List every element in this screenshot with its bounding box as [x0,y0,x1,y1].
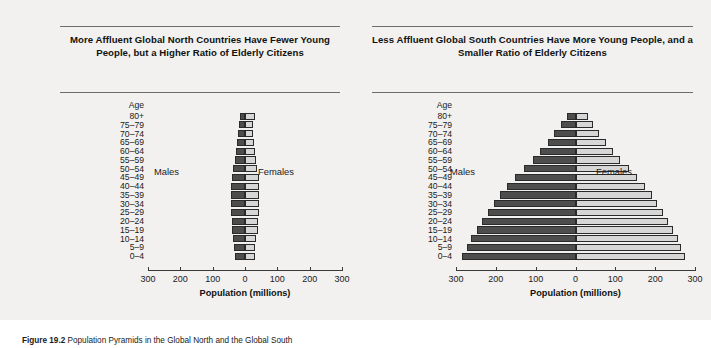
bar-female [576,130,600,137]
bar-male [533,156,576,163]
bar-male [467,244,575,251]
panel-rule-bottom [60,92,340,93]
bar-male [462,253,576,260]
age-group-label: 0–4 [408,252,452,261]
bar-male [561,121,575,128]
bar-male [548,139,576,146]
bar-male [235,156,245,163]
bar-male [482,218,576,225]
age-axis-header: Age [408,100,452,110]
pyramid-row: 60–64 [72,147,342,156]
panel-title-global-south: Less Affluent Global South Countries Hav… [372,33,693,60]
bar-female [245,244,255,251]
pyramid-rows-global-south: 80+75–7970–7465–6960–6455–5950–5445–4940… [384,112,695,270]
bar-female [576,244,682,251]
x-axis-tick [148,267,149,271]
bar-track [456,182,695,191]
panels-row: More Affluent Global North Countries Hav… [0,0,711,320]
bar-track [456,191,695,200]
x-axis-tick [655,267,656,271]
bar-track [148,208,342,217]
pyramid-row: 25–29 [72,208,342,217]
plot-area-global-north: Age 80+75–7970–7465–6960–6455–5950–5445–… [72,100,342,282]
x-axis-tick-label: 200 [648,274,663,284]
bar-male [477,226,576,233]
bar-track [456,112,695,121]
bar-male [232,218,245,225]
bar-male [231,191,245,198]
bar-track [148,226,342,235]
bar-male [494,200,576,207]
bar-female [576,235,678,242]
x-axis-tick [695,267,696,271]
bar-track [456,165,695,174]
panel-title-global-north: More Affluent Global North Countries Hav… [60,33,340,60]
bar-track [456,200,695,209]
x-axis-tick-label: 300 [448,274,463,284]
bar-male [232,174,245,181]
bar-track [456,138,695,147]
pyramid-row: 65–69 [72,138,342,147]
bar-female [245,226,258,233]
panel-rule-top [60,26,340,27]
bar-male [238,130,245,137]
bar-male [232,226,245,233]
bar-male [235,253,245,260]
bar-female [245,235,256,242]
bar-track [148,147,342,156]
bar-female [576,200,658,207]
bar-female [245,130,253,137]
bar-female [576,218,669,225]
bar-male [567,113,576,120]
series-label-males-south: Males [450,166,475,177]
bar-track [456,235,695,244]
x-axis-tick [615,267,616,271]
x-axis-tick [576,267,577,271]
x-axis-global-north: Population (millions) 300200100010020030… [148,270,342,296]
panel-rule-top [372,26,693,27]
bar-track [148,217,342,226]
bar-track [456,121,695,130]
bar-track [148,191,342,200]
bar-female [245,183,259,190]
x-axis-title: Population (millions) [148,288,342,298]
bar-track [456,217,695,226]
x-axis-tick-label: 300 [334,274,349,284]
x-axis-tick-label: 100 [205,274,220,284]
x-axis-tick [456,267,457,271]
bar-track [148,182,342,191]
pyramid-row: 45–49 [72,173,342,182]
pyramid-row: 80+ [72,112,342,121]
bar-female [576,113,589,120]
bar-female [576,121,594,128]
bar-female [245,253,255,260]
series-label-males-north: Males [154,166,179,177]
x-axis-tick-label: 100 [270,274,285,284]
panel-rule-bottom [372,92,693,93]
pyramid-row: 20–24 [72,217,342,226]
bar-male [233,165,245,172]
bar-track [148,112,342,121]
bar-male [488,209,576,216]
bar-male [471,235,575,242]
pyramid-row: 10–14 [72,235,342,244]
pyramid-rows-global-north: 80+75–7970–7465–6960–6455–5950–5445–4940… [72,112,342,270]
bar-track [456,147,695,156]
figure-caption-text: Population Pyramids in the Global North … [68,336,293,345]
bar-female [576,148,613,155]
bar-track [148,200,342,209]
age-axis-header: Age [100,100,144,110]
pyramid-row: 40–44 [72,182,342,191]
bar-male [540,148,575,155]
bar-female [576,253,686,260]
age-group-label: 0–4 [100,252,144,261]
bar-male [237,139,245,146]
bar-track [456,208,695,217]
bar-female [245,209,259,216]
bar-female [576,209,663,216]
pyramid-row: 30–34 [72,200,342,209]
x-axis-tick-label: 0 [573,274,578,284]
bar-male [507,183,576,190]
figure-container: More Affluent Global North Countries Hav… [0,0,711,320]
bar-male [500,191,576,198]
